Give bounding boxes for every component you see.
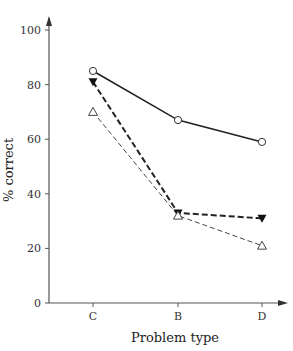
series-layer <box>89 67 267 249</box>
line-chart: 020406080100CBD Problem type % correct <box>0 0 293 351</box>
y-axis-label: % correct <box>1 137 16 202</box>
x-axis-arrow-icon <box>278 300 288 306</box>
y-tick-label: 20 <box>27 242 41 255</box>
open-circle-marker-icon <box>89 67 96 74</box>
series-open-circle-solid <box>89 67 265 145</box>
y-tick-label: 80 <box>27 79 41 92</box>
series-open-triangle-thin-dashed <box>89 107 267 249</box>
y-tick-label: 60 <box>27 133 41 146</box>
series-line <box>93 112 262 246</box>
y-tick-label: 0 <box>34 297 41 310</box>
open-circle-marker-icon <box>258 138 265 145</box>
series-line <box>93 82 262 219</box>
open-triangle-marker-icon <box>258 241 267 249</box>
y-tick-label: 100 <box>20 24 41 37</box>
open-circle-marker-icon <box>174 116 181 123</box>
axes: 020406080100CBD <box>20 16 288 323</box>
y-tick-label: 40 <box>27 188 41 201</box>
open-triangle-marker-icon <box>89 107 98 115</box>
x-tick-label: C <box>89 310 97 323</box>
y-axis-arrow-icon <box>46 16 52 26</box>
series-filled-triangle-bold-dashed <box>89 78 267 223</box>
x-tick-label: B <box>174 310 182 323</box>
x-axis-label: Problem type <box>131 330 219 345</box>
x-tick-label: D <box>258 310 267 323</box>
series-line <box>93 71 262 142</box>
